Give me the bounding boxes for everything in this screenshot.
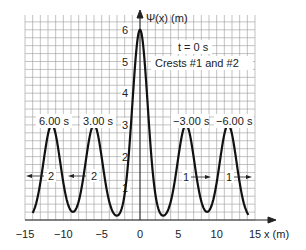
y-tick-label: 3 bbox=[122, 119, 128, 131]
right-arrow-icon bbox=[205, 175, 211, 179]
x-tick-label: 15 bbox=[249, 228, 261, 240]
x-tick-labels: −15−10−5051015 bbox=[16, 228, 261, 240]
right-outer-time-label: −6.00 s bbox=[216, 115, 253, 127]
x-tick-label: 10 bbox=[211, 228, 223, 240]
x-tick-label: −10 bbox=[54, 228, 73, 240]
x-axis-arrow-icon bbox=[268, 217, 276, 223]
right-inner-time-label: −3.00 s bbox=[173, 115, 210, 127]
crest-label-right-inner: 1 bbox=[183, 171, 189, 183]
x-tick-label: −15 bbox=[16, 228, 35, 240]
chart: 123456 −15−10−5051015 Ψ(x) (m) x (m) t =… bbox=[0, 0, 306, 250]
x-axis-label: x (m) bbox=[264, 228, 289, 240]
x-tick-label: 0 bbox=[137, 228, 143, 240]
crests-annotation: Crests #1 and #2 bbox=[155, 57, 239, 69]
crest-label-right-outer: 1 bbox=[226, 171, 232, 183]
x-tick-label: 5 bbox=[175, 228, 181, 240]
left-arrow-icon bbox=[26, 174, 32, 178]
time-annotation: t = 0 s bbox=[178, 41, 209, 53]
crest-label-left-inner: 2 bbox=[91, 170, 97, 182]
crest-label-left-outer: 2 bbox=[48, 170, 54, 182]
y-tick-label: 4 bbox=[122, 87, 128, 99]
y-tick-label: 5 bbox=[122, 56, 128, 68]
x-tick-label: −5 bbox=[95, 228, 108, 240]
y-axis-label: Ψ(x) (m) bbox=[146, 12, 188, 24]
left-inner-time-label: 3.00 s bbox=[83, 115, 113, 127]
y-tick-label: 6 bbox=[122, 24, 128, 36]
right-arrow-icon bbox=[246, 175, 252, 179]
y-axis-arrow-icon bbox=[137, 10, 143, 18]
left-outer-time-label: 6.00 s bbox=[39, 115, 69, 127]
